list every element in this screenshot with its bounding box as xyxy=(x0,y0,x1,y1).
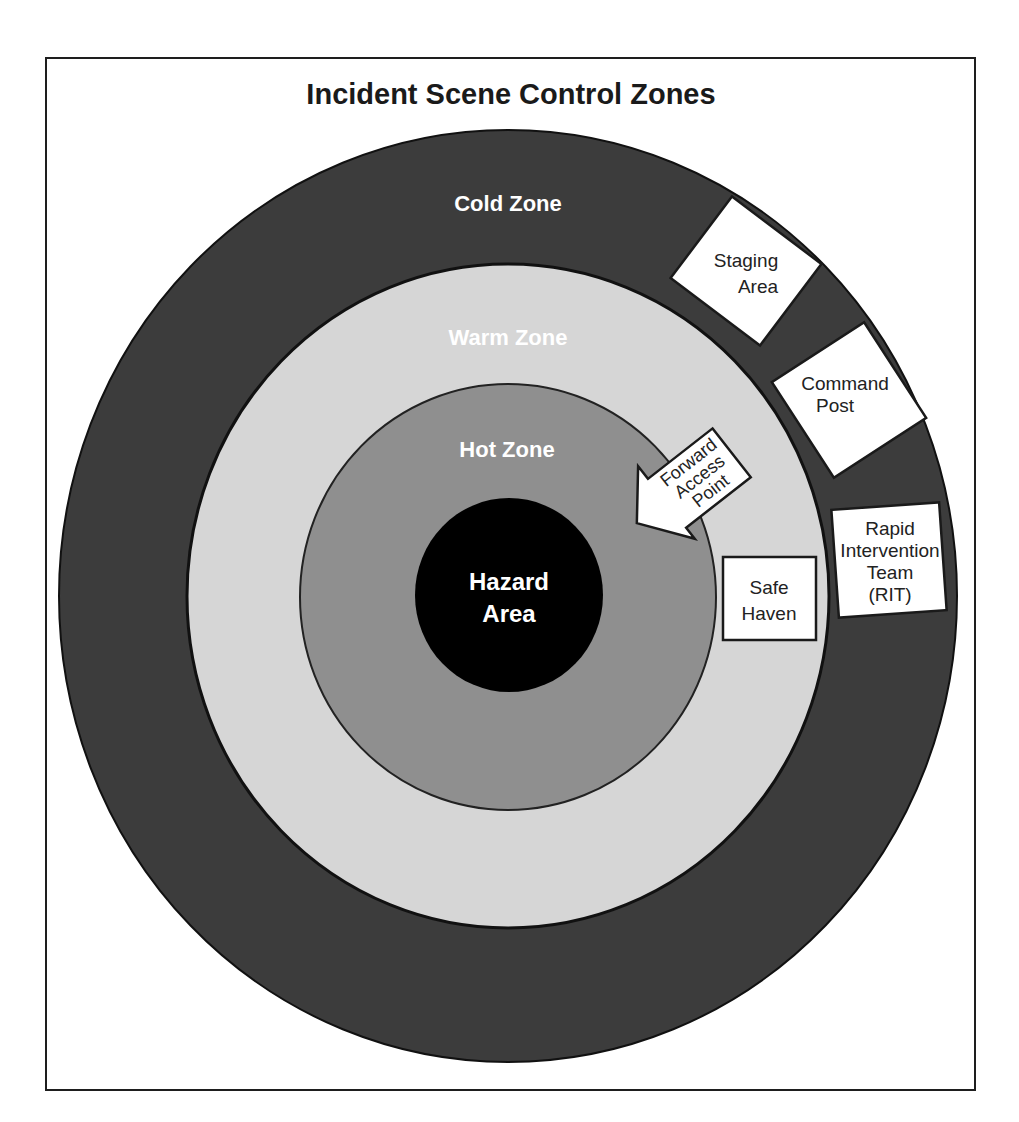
diagram-title: Incident Scene Control Zones xyxy=(306,78,715,110)
staging-area-label-line2: Area xyxy=(738,276,779,297)
rit-box: Rapid Intervention Team (RIT) xyxy=(831,502,946,617)
cold-zone-label: Cold Zone xyxy=(454,191,562,216)
hot-zone-label: Hot Zone xyxy=(459,437,554,462)
safe-haven-box: Safe Haven xyxy=(723,557,816,640)
command-post-label-line1: Command xyxy=(801,373,889,394)
safe-haven-label-line2: Haven xyxy=(742,603,797,624)
safe-haven-label-line1: Safe xyxy=(749,577,788,598)
control-zones-diagram: Incident Scene Control Zones Cold Zone W… xyxy=(0,0,1019,1122)
rit-label-line2: Intervention xyxy=(840,540,939,561)
rit-label-line1: Rapid xyxy=(865,518,915,539)
hazard-area-label-line1: Hazard xyxy=(469,568,549,595)
command-post-label-line2: Post xyxy=(816,395,855,416)
rit-label-line4: (RIT) xyxy=(868,584,911,605)
staging-area-label-line1: Staging xyxy=(714,250,778,271)
warm-zone-label: Warm Zone xyxy=(449,325,568,350)
hazard-area-circle xyxy=(415,498,603,692)
rit-label-line3: Team xyxy=(867,562,913,583)
hazard-area-label-line2: Area xyxy=(482,600,536,627)
